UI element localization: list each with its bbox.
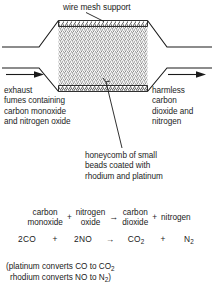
label-wire-mesh-support: wire mesh support (63, 2, 131, 12)
outlet-flow-arrow-icon (168, 71, 206, 77)
catalyst-note-line-2-close: ) (108, 273, 111, 282)
catalyst-note-line-2-sub: 2 (105, 276, 109, 283)
label-exhaust-inlet: exhaust fumes containing carbon monoxide… (4, 86, 96, 128)
catalyst-note-line-2-text: rhodium converts NO to N (10, 273, 105, 282)
catalyst-note-line-2: rhodium converts NO to N2) (6, 273, 210, 284)
equation-symbol-plus-2: + (152, 235, 174, 245)
catalyst-note: (platinum converts CO to CO2 rhodium con… (6, 262, 210, 283)
catalyst-note-line-1-text: (platinum converts CO to CO (6, 262, 111, 271)
catalyst-note-line-1-sub: 2 (111, 265, 115, 272)
equation-word-plus-2: + (151, 213, 158, 223)
label-honeycomb-beads: honeycomb of small beads coated with rho… (85, 151, 213, 182)
equation-symbol-product-2: N2 (174, 235, 204, 245)
equation-symbol-plus-1: + (44, 235, 66, 245)
equation-word-plus-1: + (66, 213, 73, 223)
inlet-flow-arrow-icon (6, 71, 44, 77)
equation-word-arrow-icon: → (108, 213, 119, 223)
chemical-equation: carbon monoxide + nitrogen oxide → carbo… (0, 208, 214, 245)
equation-words-row: carbon monoxide + nitrogen oxide → carbo… (0, 208, 214, 227)
equation-word-reactant-2: nitrogen oxide (76, 208, 106, 227)
catalyst-note-line-1: (platinum converts CO to CO2 (6, 262, 115, 271)
equation-symbol-reactant-2: 2NO (66, 235, 100, 245)
inlet-pipe (2, 21, 59, 92)
outlet-pipe (148, 21, 213, 92)
equation-symbol-arrow-icon: → (100, 235, 120, 245)
label-harmless-outlet: harmless carbon dioxide and nitrogen (152, 86, 212, 128)
equation-word-product-2: nitrogen (161, 213, 191, 223)
equation-word-product-1: carbon dioxide (122, 208, 148, 227)
equation-symbol-product-1: CO2 (120, 235, 152, 245)
equation-symbol-product-1-sub: 2 (141, 238, 145, 245)
equation-word-reactant-1: carbon monoxide (27, 208, 63, 227)
equation-symbol-product-1-base: CO (128, 234, 141, 244)
equation-symbols-row: 2CO + 2NO → CO2 + N2 (0, 235, 214, 245)
equation-symbol-product-2-sub: 2 (190, 238, 194, 245)
diagram-canvas: wire mesh support exhaust fumes containi… (0, 0, 214, 288)
equation-symbol-reactant-1: 2CO (10, 235, 44, 245)
converter-core (59, 27, 148, 86)
